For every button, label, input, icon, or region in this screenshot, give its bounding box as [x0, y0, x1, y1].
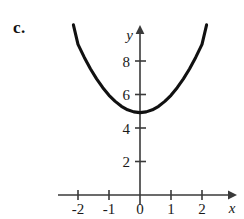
x-ticklabel-neg2: -2	[72, 201, 85, 217]
parabola-plot: -2 -1 0 1 2 2 4 6 8 y x	[0, 0, 244, 219]
y-ticklabel-6: 6	[123, 87, 131, 103]
x-axis-arrow-icon	[228, 191, 237, 200]
x-ticklabel-1: 1	[167, 201, 175, 217]
y-ticklabel-4: 4	[123, 121, 131, 137]
y-axis-label: y	[124, 27, 133, 43]
x-ticklabel-2: 2	[198, 201, 206, 217]
x-axis-label: x	[228, 200, 236, 216]
x-ticklabel-0: 0	[136, 201, 144, 217]
y-axis-arrow-icon	[136, 25, 145, 34]
y-ticklabel-2: 2	[123, 154, 131, 170]
figure-panel: c. -2 -1 0 1 2 2 4 6 8 y x	[0, 0, 244, 219]
x-ticklabel-neg1: -1	[103, 201, 116, 217]
y-ticklabel-8: 8	[123, 54, 131, 70]
